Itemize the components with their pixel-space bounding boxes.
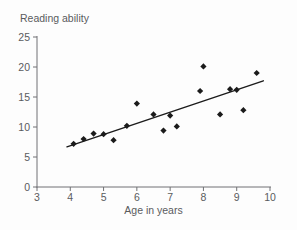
x-tick-label: 10 (264, 191, 276, 203)
y-tick-label: 0 (24, 181, 30, 193)
x-tick-label: 9 (234, 191, 240, 203)
x-tick-label: 6 (134, 191, 140, 203)
scatter-plot-canvas: 3456789100510152025 (0, 0, 297, 230)
data-point-marker (100, 131, 106, 137)
y-tick-label: 25 (18, 31, 30, 43)
x-tick-label: 5 (101, 191, 107, 203)
data-point-marker (134, 101, 140, 107)
y-tick-label: 15 (18, 91, 30, 103)
data-point-marker (234, 87, 240, 93)
data-point-marker (90, 131, 96, 137)
data-point-marker (200, 63, 206, 69)
y-tick-label: 10 (18, 121, 30, 133)
data-point-marker (160, 128, 166, 134)
data-point-marker (217, 111, 223, 117)
x-tick-label: 3 (34, 191, 40, 203)
x-axis-label: Age in years (37, 204, 270, 216)
data-point-marker (254, 70, 260, 76)
data-point-marker (174, 123, 180, 129)
y-tick-label: 20 (18, 61, 30, 73)
trend-line (67, 81, 263, 147)
x-tick-label: 7 (167, 191, 173, 203)
x-tick-label: 8 (201, 191, 207, 203)
data-point-marker (197, 88, 203, 94)
y-tick-label: 5 (24, 151, 30, 163)
data-point-marker (240, 107, 246, 113)
x-tick-label: 4 (67, 191, 73, 203)
screenshot-root: Reading ability 3456789100510152025 Age … (0, 0, 297, 230)
data-point-marker (110, 137, 116, 143)
